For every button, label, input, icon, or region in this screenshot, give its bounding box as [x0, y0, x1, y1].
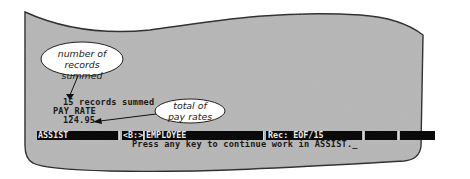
screen-frame — [0, 0, 470, 179]
status-divider — [119, 131, 120, 140]
status-slot-6 — [400, 131, 435, 140]
callout-total-line1: total of — [155, 100, 225, 111]
callout-records-line2: summed — [41, 70, 123, 81]
text-cursor: _ — [352, 140, 357, 149]
status-divider — [398, 131, 399, 140]
callout-total-line2: pay rates — [155, 111, 225, 122]
continue-prompt[interactable]: Press any key to continue work in ASSIST… — [132, 140, 358, 149]
field-total-value: 124.95 — [63, 116, 95, 125]
callout-records-line1: number of records — [41, 48, 123, 70]
status-divider — [363, 131, 364, 140]
status-mode: ASSIST — [37, 131, 118, 140]
callout-total-text: total of pay rates — [155, 100, 225, 122]
continue-prompt-text: Press any key to continue work in ASSIST… — [132, 139, 352, 149]
status-slot-5 — [365, 131, 397, 140]
callout-records-text: number of records summed — [41, 48, 123, 81]
